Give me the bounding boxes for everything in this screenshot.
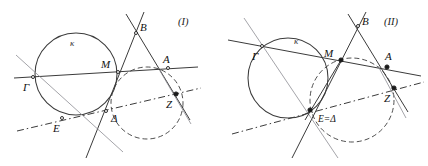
point-gamma-dot	[261, 45, 264, 48]
point-z-dot	[392, 86, 396, 90]
point-z-dot	[174, 92, 178, 96]
line-b-edelta	[292, 12, 366, 158]
circle-dashed	[111, 67, 183, 139]
point-delta-dot	[105, 110, 108, 113]
point-delta-label: Δ	[110, 112, 117, 124]
point-z-label: Z	[384, 92, 391, 104]
point-a-label: A	[384, 50, 392, 62]
panel-group-2: ΓMABE=ΔZκ(II)	[228, 12, 424, 158]
panel-group-1: ΓMABEΔZκ(I)	[14, 12, 201, 158]
point-m-dot	[339, 58, 343, 62]
point-a-dot	[167, 67, 170, 70]
geometry-figure: ΓMABEΔZκ(I) ΓMABE=ΔZκ(II)	[0, 0, 428, 166]
point-m-label: M	[100, 58, 111, 70]
geometry-svg-canvas: ΓMABEΔZκ(I) ΓMABE=ΔZκ(II)	[0, 0, 428, 166]
point-e-dot	[61, 117, 64, 120]
line-b-a-z	[126, 14, 190, 120]
point-a-label: A	[162, 53, 170, 65]
point-b-dot	[357, 25, 360, 28]
circle-kappa-label: κ	[294, 36, 299, 46]
point-b-label: B	[140, 21, 147, 33]
point-a-dot	[385, 65, 389, 69]
panel-caption: (I)	[178, 16, 189, 28]
point-z-label: Z	[166, 98, 173, 110]
point-m-label: M	[323, 47, 334, 59]
point-gamma-label: Γ	[251, 50, 259, 62]
line-z-cross	[160, 71, 191, 124]
circle-kappa-label: κ	[70, 38, 75, 48]
circle-dashed	[310, 58, 394, 142]
point-e-delta-dot	[308, 108, 312, 112]
point-e-delta-label: E=Δ	[317, 114, 336, 124]
panel-caption: (II)	[384, 16, 398, 28]
point-b-dot	[135, 32, 138, 35]
point-gamma-label: Γ	[22, 81, 30, 93]
point-m-dot	[117, 71, 120, 74]
line-b-a-z	[348, 14, 408, 112]
point-e-label: E	[52, 122, 60, 134]
point-gamma-dot	[32, 76, 35, 79]
point-b-label: B	[362, 15, 369, 27]
line-z-cross	[378, 66, 406, 118]
